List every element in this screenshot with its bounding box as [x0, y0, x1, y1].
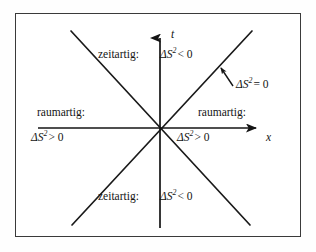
spacelike-word-right: raumartig: [198, 106, 246, 118]
timelike-word-top: zeitartig: [98, 48, 139, 60]
delta-s-symbol-right: ΔS [177, 131, 190, 143]
label-timelike-future-expression: ΔS2< 0 [160, 48, 194, 60]
label-spacelike-left-word: raumartig: [37, 106, 85, 118]
timelike-word-bottom: zeitartig: [98, 190, 139, 202]
lightcone-pointer-arrow [221, 68, 233, 86]
spacelike-word-left: raumartig: [37, 106, 85, 118]
relation-left: > 0 [47, 131, 64, 143]
label-timelike-future-word: zeitartig: [98, 48, 139, 60]
spacetime-diagram-figure: zeitartig: ΔS2< 0 ΔS2= 0 raumartig: ΔS2>… [0, 0, 316, 252]
label-lightcone-expression: ΔS2= 0 [236, 78, 270, 90]
relation-right: > 0 [193, 131, 210, 143]
delta-s-symbol-top: ΔS [160, 48, 173, 60]
relation-top: < 0 [176, 48, 193, 60]
diagram-canvas [0, 0, 316, 252]
label-spacelike-right-word: raumartig: [198, 106, 246, 118]
relation-lightcone: = 0 [252, 78, 269, 90]
label-spacelike-left-expression: ΔS2> 0 [31, 131, 65, 143]
relation-bottom: < 0 [176, 190, 193, 202]
delta-s-symbol-left: ΔS [31, 131, 44, 143]
label-timelike-past-expression: ΔS2< 0 [160, 190, 194, 202]
label-spacelike-right-expression: ΔS2> 0 [177, 131, 211, 143]
time-axis-label: t [171, 28, 174, 40]
space-axis-label: x [266, 131, 271, 143]
delta-s-symbol-bottom: ΔS [160, 190, 173, 202]
delta-s-symbol-lightcone: ΔS [236, 78, 249, 90]
label-timelike-past-word: zeitartig: [98, 190, 139, 202]
